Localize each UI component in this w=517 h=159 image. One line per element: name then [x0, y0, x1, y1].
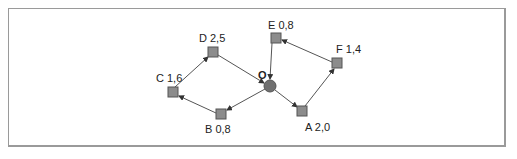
label-o: O: [258, 70, 267, 81]
label-e: E 0,8: [268, 20, 294, 31]
label-c: C 1,6: [156, 73, 182, 84]
edge-a-f: [305, 69, 334, 106]
node-o: [264, 80, 276, 92]
node-a: [297, 106, 307, 116]
edge-e-o: [270, 43, 272, 79]
edge-b-c: [179, 96, 216, 113]
node-f: [332, 58, 342, 68]
edge-f-e: [282, 40, 332, 62]
edge-o-b: [227, 89, 265, 110]
label-f: F 1,4: [336, 44, 361, 55]
label-d: D 2,5: [199, 33, 225, 44]
label-a: A 2,0: [305, 122, 330, 133]
node-b: [216, 109, 226, 119]
edge-o-a: [275, 90, 297, 107]
node-c: [168, 87, 178, 97]
label-b: B 0,8: [205, 124, 231, 135]
node-d: [208, 47, 218, 57]
node-e: [271, 33, 281, 43]
